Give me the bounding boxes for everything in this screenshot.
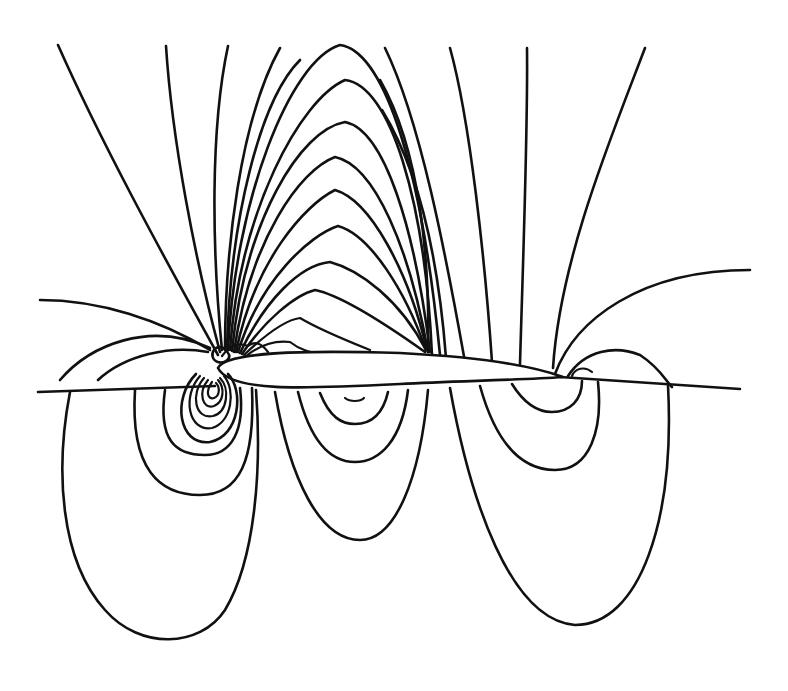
upper-right-contours	[380, 48, 750, 387]
contour-plot-canvas	[0, 0, 788, 691]
lower-middle-loops	[275, 390, 428, 540]
lower-right-loops	[450, 381, 669, 625]
airfoil-section	[218, 352, 563, 388]
contour-figure	[0, 0, 788, 691]
